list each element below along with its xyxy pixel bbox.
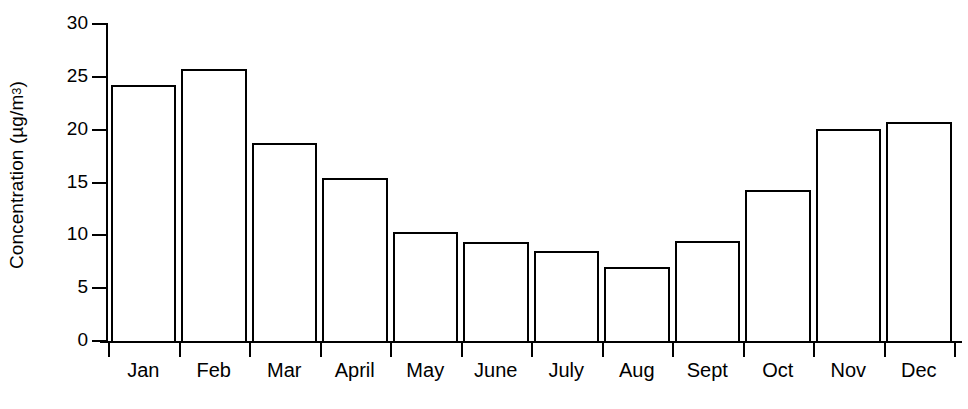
x-axis-tick-mark [249, 343, 251, 357]
x-axis-tick-mark [602, 343, 604, 357]
x-axis-tick-label: July [548, 360, 584, 380]
x-axis-tick-mark [461, 343, 463, 357]
x-axis-tick-mark [390, 343, 392, 357]
x-axis-tick-label: Jan [127, 360, 159, 380]
x-axis-tick-mark [954, 343, 956, 357]
x-axis-tick-mark [743, 343, 745, 357]
x-axis-tick-mark [108, 343, 110, 357]
x-axis-tick-mark [531, 343, 533, 357]
x-axis-tick-mark [320, 343, 322, 357]
x-axis-tick-mark [884, 343, 886, 357]
x-axis-tick-mark [672, 343, 674, 357]
x-axis-tick-label: Feb [197, 360, 231, 380]
x-axis-tick-mark [813, 343, 815, 357]
x-axis-tick-label: Aug [619, 360, 655, 380]
x-axis-ticks: JanFebMarAprilMayJuneJulyAugSeptOctNovDe… [0, 0, 968, 409]
x-axis-tick-label: Dec [901, 360, 937, 380]
x-axis-tick-label: Mar [267, 360, 301, 380]
x-axis-tick-label: April [335, 360, 375, 380]
x-axis-tick-label: Oct [762, 360, 793, 380]
x-axis-tick-label: June [474, 360, 517, 380]
x-axis-tick-label: Nov [830, 360, 866, 380]
x-axis-tick-label: May [406, 360, 444, 380]
bar-chart: Concentration (µg/m3) 051015202530 JanFe… [0, 0, 968, 409]
x-axis-tick-mark [179, 343, 181, 357]
x-axis-tick-label: Sept [687, 360, 728, 380]
